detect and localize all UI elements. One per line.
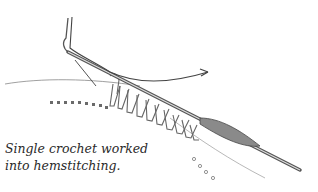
figure-caption: Single crochet worked into hemstitching. <box>5 140 148 174</box>
hook-head <box>64 18 68 52</box>
fabric-edge-upper <box>5 80 140 86</box>
hemstitch-holes-lower <box>192 157 214 179</box>
caption-line-2: into hemstitching. <box>5 157 148 174</box>
hook-grip <box>200 118 260 146</box>
caption-line-1: Single crochet worked <box>5 140 148 157</box>
illustration-figure: Single crochet worked into hemstitching. <box>0 0 318 192</box>
hemstitch-holes <box>50 101 108 109</box>
working-yarn <box>70 17 208 81</box>
direction-arrow-icon <box>200 69 208 76</box>
